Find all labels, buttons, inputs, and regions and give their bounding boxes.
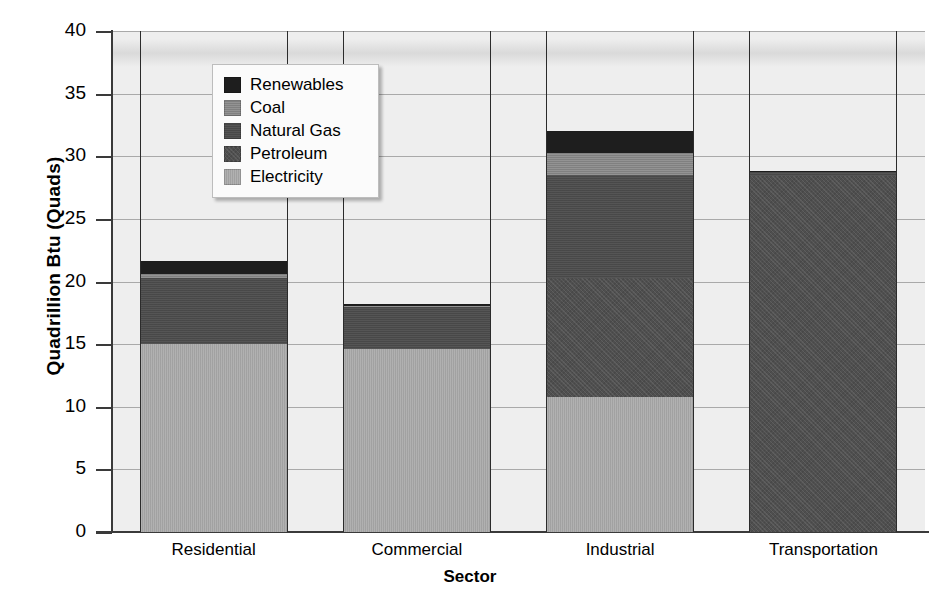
y-axis-tick-label: 40 xyxy=(40,19,86,41)
bar-segment-residential-electricity[interactable] xyxy=(141,344,287,532)
legend-swatch-petroleum-icon xyxy=(224,146,241,162)
x-axis-label-residential: Residential xyxy=(112,540,315,560)
legend-item-natural-gas[interactable]: Natural Gas xyxy=(224,119,369,142)
bar-segment-transportation-natural-gas[interactable] xyxy=(750,171,896,176)
y-axis-line xyxy=(111,30,113,533)
legend-swatch-electricity-icon xyxy=(224,169,241,185)
y-axis-tick-label: 15 xyxy=(40,332,86,354)
y-axis-tick-label: 5 xyxy=(40,457,86,479)
y-axis-tick-label: 20 xyxy=(40,270,86,292)
y-axis-tick-label: 35 xyxy=(40,82,86,104)
y-axis-tick xyxy=(96,156,112,158)
bar-segment-commercial-renewables[interactable] xyxy=(344,304,490,306)
legend-item-petroleum[interactable]: Petroleum xyxy=(224,142,369,165)
y-axis-tick xyxy=(96,469,112,471)
chart-legend: RenewablesCoalNatural GasPetroleumElectr… xyxy=(212,64,379,198)
legend-swatch-natural-gas-icon xyxy=(224,123,241,139)
bar-segment-industrial-electricity[interactable] xyxy=(547,397,693,532)
x-axis-label-industrial: Industrial xyxy=(519,540,722,560)
y-axis-tick-label: 30 xyxy=(40,144,86,166)
bar-segment-transportation-petroleum[interactable] xyxy=(750,175,896,532)
y-axis-tick xyxy=(96,344,112,346)
legend-label: Petroleum xyxy=(250,145,327,162)
y-axis-tick-label: 0 xyxy=(40,520,86,542)
bar-segment-residential-renewables[interactable] xyxy=(141,261,287,273)
y-axis-tick xyxy=(96,94,112,96)
legend-label: Electricity xyxy=(250,168,323,185)
bar-segment-commercial-electricity[interactable] xyxy=(344,349,490,532)
legend-label: Coal xyxy=(250,99,285,116)
legend-item-renewables[interactable]: Renewables xyxy=(224,73,369,96)
bar-segment-commercial-natural-gas[interactable] xyxy=(344,307,490,350)
bar-segment-industrial-coal[interactable] xyxy=(547,152,693,175)
x-axis-label-commercial: Commercial xyxy=(315,540,518,560)
bar-segment-industrial-petroleum[interactable] xyxy=(547,278,693,397)
bar-segment-industrial-renewables[interactable] xyxy=(547,131,693,153)
y-axis-tick xyxy=(96,31,112,33)
legend-swatch-coal-icon xyxy=(224,100,241,116)
legend-swatch-renewables-icon xyxy=(224,77,241,93)
bar-segment-industrial-natural-gas[interactable] xyxy=(547,175,693,278)
y-axis-tick xyxy=(96,282,112,284)
x-axis-title: Sector xyxy=(0,567,940,587)
y-axis-tick-label: 25 xyxy=(40,207,86,229)
bar-transportation[interactable] xyxy=(749,31,897,532)
y-axis-tick xyxy=(96,407,112,409)
legend-label: Renewables xyxy=(250,76,344,93)
bar-industrial[interactable] xyxy=(546,31,694,532)
x-axis-label-transportation: Transportation xyxy=(722,540,925,560)
bar-segment-residential-natural-gas[interactable] xyxy=(141,278,287,344)
y-axis-tick-label: 10 xyxy=(40,395,86,417)
chart-container: Quadrillion Btu (Quads) 0510152025303540… xyxy=(0,0,940,601)
legend-item-electricity[interactable]: Electricity xyxy=(224,165,369,188)
legend-label: Natural Gas xyxy=(250,122,341,139)
legend-item-coal[interactable]: Coal xyxy=(224,96,369,119)
y-axis-tick xyxy=(96,219,112,221)
